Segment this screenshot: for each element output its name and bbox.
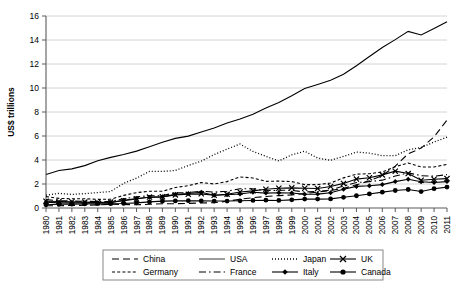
legend-marker xyxy=(282,269,287,274)
x-tick-label: 1991 xyxy=(184,216,193,235)
y-axis-title: US$ trillions xyxy=(6,87,16,137)
legend-marker xyxy=(340,269,345,274)
x-tick-label: 1987 xyxy=(133,216,142,235)
data-point xyxy=(212,199,217,204)
x-tick-label: 1998 xyxy=(275,216,284,235)
data-point xyxy=(406,187,411,192)
x-axis-ticks: 1980198119821983198419851986198719881989… xyxy=(42,208,452,234)
data-point xyxy=(289,197,294,202)
x-tick-label: 1989 xyxy=(158,216,167,235)
series-line xyxy=(46,137,447,195)
y-tick-label: 10 xyxy=(30,83,40,93)
data-point xyxy=(238,198,243,203)
data-point xyxy=(82,202,87,207)
x-tick-label: 1988 xyxy=(145,216,154,235)
legend-item-italy[interactable]: Italy xyxy=(272,267,319,277)
data-point xyxy=(276,190,281,195)
x-tick-label: 1982 xyxy=(68,216,77,235)
series-germany xyxy=(46,163,447,199)
series-canada xyxy=(44,185,450,207)
series-usa xyxy=(46,22,447,175)
x-tick-label: 1981 xyxy=(55,216,64,235)
series-japan xyxy=(46,137,447,195)
y-tick-label: 8 xyxy=(34,107,39,117)
data-point xyxy=(44,202,49,207)
y-tick-label: 4 xyxy=(34,155,39,165)
data-point xyxy=(160,199,165,204)
data-point xyxy=(328,190,333,195)
legend-label: Italy xyxy=(303,267,319,277)
data-point xyxy=(95,201,100,206)
x-tick-label: 2001 xyxy=(314,216,323,235)
y-axis-ticks: 0246810121416 xyxy=(30,11,46,213)
data-point xyxy=(354,193,359,198)
data-point xyxy=(380,182,385,187)
data-point xyxy=(276,198,281,203)
x-tick-label: 1996 xyxy=(249,216,258,235)
data-point xyxy=(134,200,139,205)
x-tick-label: 2004 xyxy=(352,216,361,235)
data-point xyxy=(147,199,152,204)
legend-label: UK xyxy=(361,254,373,264)
data-point xyxy=(406,177,411,182)
legend-label: Canada xyxy=(361,267,391,277)
legend-item-usa[interactable]: USA xyxy=(199,254,248,264)
data-point xyxy=(251,198,256,203)
legend-item-france[interactable]: France xyxy=(199,267,257,277)
legend-item-japan[interactable]: Japan xyxy=(272,254,326,264)
x-tick-label: 2008 xyxy=(404,216,413,235)
x-tick-label: 1990 xyxy=(171,216,180,235)
series-line xyxy=(46,22,447,175)
legend-label: Japan xyxy=(303,254,326,264)
x-tick-label: 1993 xyxy=(210,216,219,235)
legend-label: China xyxy=(143,254,165,264)
data-point xyxy=(328,196,333,201)
y-tick-label: 6 xyxy=(34,131,39,141)
series-line xyxy=(46,171,447,202)
data-point xyxy=(186,198,191,203)
data-point xyxy=(341,195,346,200)
line-chart: 0246810121416 19801981198219831984198519… xyxy=(0,0,453,289)
x-tick-label: 2011 xyxy=(443,216,452,234)
x-tick-label: 2000 xyxy=(301,216,310,235)
data-point xyxy=(108,201,113,206)
data-point xyxy=(302,197,307,202)
y-tick-label: 14 xyxy=(30,35,40,45)
legend-item-canada[interactable]: Canada xyxy=(330,267,391,277)
data-point xyxy=(393,179,398,184)
x-tick-label: 1983 xyxy=(81,216,90,235)
x-tick-label: 2009 xyxy=(417,216,426,235)
x-tick-label: 1984 xyxy=(94,216,103,235)
legend-item-uk[interactable]: UK xyxy=(330,254,373,264)
x-tick-label: 1985 xyxy=(107,216,116,235)
x-tick-label: 2005 xyxy=(365,216,374,235)
data-point xyxy=(173,199,178,204)
legend-item-china[interactable]: China xyxy=(112,254,165,264)
legend-label: France xyxy=(230,267,257,277)
y-tick-label: 0 xyxy=(34,203,39,213)
data-point xyxy=(264,198,269,203)
y-tick-label: 12 xyxy=(30,59,40,69)
legend-label: USA xyxy=(230,254,248,264)
x-tick-label: 1980 xyxy=(42,216,51,235)
data-point xyxy=(302,192,307,197)
data-point xyxy=(225,199,230,204)
data-point xyxy=(121,201,126,206)
legend-item-germany[interactable]: Germany xyxy=(112,267,179,277)
data-point xyxy=(445,185,450,190)
x-tick-label: 1994 xyxy=(223,216,232,235)
x-tick-label: 1986 xyxy=(120,216,129,235)
data-point xyxy=(380,190,385,195)
data-point xyxy=(367,192,372,197)
data-point xyxy=(57,202,62,207)
chart-figure: 0246810121416 19801981198219831984198519… xyxy=(0,0,453,289)
x-tick-label: 2003 xyxy=(340,216,349,235)
series-line xyxy=(46,163,447,199)
x-tick-label: 2007 xyxy=(391,216,400,235)
x-tick-label: 2002 xyxy=(327,216,336,235)
x-tick-label: 1995 xyxy=(236,216,245,235)
x-tick-label: 1999 xyxy=(288,216,297,235)
x-tick-label: 2010 xyxy=(430,216,439,235)
legend-label: Germany xyxy=(143,267,179,277)
x-tick-label: 2006 xyxy=(378,216,387,235)
